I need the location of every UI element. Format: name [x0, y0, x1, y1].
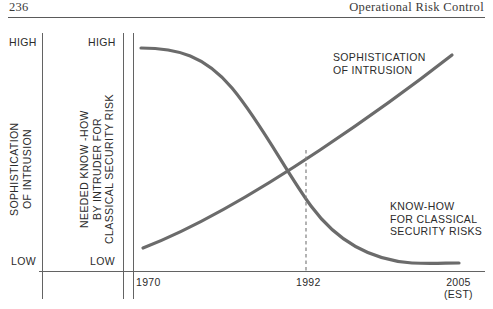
page-number: 236 [9, 0, 28, 15]
annotation-knowhow-classical-security: KNOW-HOW FOR CLASSICAL SECURITY RISKS [390, 200, 482, 238]
x-tick-2005: 2005 (EST) [444, 276, 473, 300]
running-head-title: Operational Risk Control [349, 0, 484, 15]
page-header: 236 Operational Risk Control [0, 0, 493, 22]
chart-figure: HIGH LOW SOPHISTICATION OF INTRUSION HIG… [0, 22, 493, 309]
x-tick-1970: 1970 [136, 276, 161, 288]
x-tick-1992: 1992 [296, 276, 321, 288]
annotation-sophistication-of-intrusion: SOPHISTICATION OF INTRUSION [333, 51, 426, 76]
header-divider [8, 17, 485, 18]
